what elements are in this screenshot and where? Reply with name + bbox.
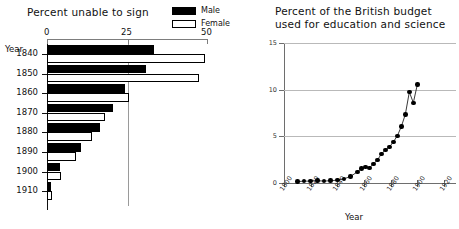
- left-category-label: 1840: [12, 48, 38, 58]
- data-point: [387, 145, 391, 149]
- left-chart-title: Percent unable to sign: [27, 6, 149, 18]
- left-xtick-25: [128, 39, 129, 44]
- bar-male: [47, 104, 113, 113]
- data-point: [391, 140, 395, 144]
- bar-female: [47, 113, 105, 122]
- bar-male: [47, 45, 154, 54]
- left-xlabel-25: 25: [121, 27, 132, 37]
- right-line-path: [232, 0, 459, 229]
- data-point: [315, 178, 319, 182]
- left-category-label: 1880: [12, 126, 38, 136]
- legend-label-male: Male: [201, 6, 220, 15]
- right-x-axis-label: Year: [345, 212, 363, 222]
- figure-container: Percent unable to sign Male Female Year …: [0, 0, 459, 229]
- left-xlabel-50: 50: [201, 27, 212, 37]
- left-xtick-0: [47, 39, 48, 44]
- bar-female: [47, 191, 52, 200]
- male-swatch-icon: [172, 7, 196, 15]
- bar-male: [47, 123, 100, 132]
- legend-item-male: Male: [172, 5, 232, 16]
- bar-female: [47, 152, 76, 161]
- left-category-label: 1890: [12, 146, 38, 156]
- bar-male: [47, 143, 81, 152]
- data-point: [295, 179, 299, 183]
- data-point: [399, 124, 403, 128]
- left-xlabel-0: 0: [44, 27, 49, 37]
- left-xtick-50: [207, 39, 208, 44]
- data-point: [375, 158, 379, 162]
- bar-male: [47, 163, 60, 172]
- bar-female: [47, 74, 199, 83]
- data-point: [348, 174, 352, 178]
- left-category-label: 1850: [12, 68, 38, 78]
- bar-female: [47, 172, 61, 181]
- right-chart-panel: Percent of the British budget used for e…: [232, 0, 459, 229]
- left-category-label: 1900: [12, 166, 38, 176]
- bar-female: [47, 132, 92, 141]
- data-point: [379, 152, 383, 156]
- left-chart-panel: Percent unable to sign Male Female Year …: [0, 0, 232, 229]
- data-point: [407, 90, 411, 94]
- bar-female: [47, 93, 129, 102]
- data-point: [328, 178, 332, 182]
- bar-male: [47, 182, 51, 191]
- left-category-label: 1860: [12, 87, 38, 97]
- bar-male: [47, 65, 146, 74]
- data-point: [415, 82, 419, 86]
- data-point: [367, 166, 371, 170]
- data-point: [395, 134, 399, 138]
- data-point: [371, 162, 375, 166]
- left-category-label: 1910: [12, 185, 38, 195]
- bar-female: [47, 54, 205, 63]
- bar-male: [47, 84, 125, 93]
- data-point: [403, 112, 407, 116]
- data-point: [335, 178, 339, 182]
- left-category-label: 1870: [12, 107, 38, 117]
- data-point: [411, 101, 415, 105]
- female-swatch-icon: [172, 20, 196, 28]
